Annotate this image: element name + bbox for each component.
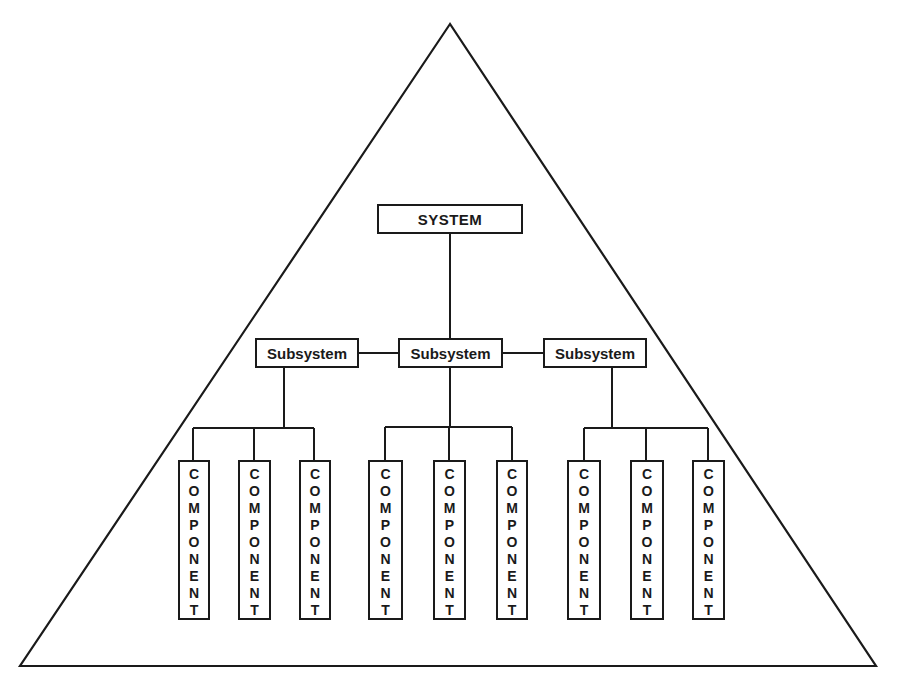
component-label-letter: E [507,568,516,585]
component-label-letter: N [507,585,517,602]
component-label-letter: O [380,483,391,500]
component-label-letter: E [310,568,319,585]
subsystem-node-2: Subsystem [398,338,503,368]
component-label-letter: O [507,483,518,500]
component-label-letter: O [189,483,200,500]
component-label-letter: N [310,585,320,602]
component-label-letter: P [704,517,713,534]
component-label-letter: N [703,585,713,602]
component-label-letter: O [380,534,391,551]
component-label-letter: O [507,534,518,551]
subsystem-label: Subsystem [267,345,347,362]
component-label-letter: C [642,466,652,483]
component-label-letter: N [703,551,713,568]
system-node: SYSTEM [377,204,523,234]
component-label-letter: O [310,483,321,500]
component-label-letter: M [641,500,653,517]
component-label-letter: N [380,551,390,568]
component-label-letter: E [250,568,259,585]
component-label-letter: C [249,466,259,483]
subsystem-label: Subsystem [555,345,635,362]
subsystem-label: Subsystem [410,345,490,362]
component-label-letter: N [444,585,454,602]
component-node: COMPONENT [433,460,466,620]
component-label-letter: P [579,517,588,534]
component-label-letter: T [250,602,259,619]
component-label-letter: M [444,500,456,517]
component-node: COMPONENT [299,460,331,620]
component-label-letter: N [507,551,517,568]
component-label-letter: N [249,585,259,602]
component-label-letter: O [249,534,260,551]
component-label-letter: N [189,551,199,568]
component-label-letter: O [579,483,590,500]
component-label-letter: M [506,500,518,517]
component-label-letter: M [703,500,715,517]
component-label-letter: O [189,534,200,551]
component-label-letter: T [704,602,713,619]
component-label-letter: M [188,500,200,517]
component-label-letter: O [642,534,653,551]
component-label-letter: N [642,585,652,602]
component-label-letter: T [508,602,517,619]
component-label-letter: P [507,517,516,534]
component-label-letter: O [249,483,260,500]
component-label-letter: M [380,500,392,517]
component-label-letter: T [381,602,390,619]
component-node: COMPONENT [630,460,664,620]
component-label-letter: E [445,568,454,585]
subsystem-node-3: Subsystem [543,338,647,368]
component-label-letter: O [642,483,653,500]
component-node: COMPONENT [496,460,528,620]
component-label-letter: E [642,568,651,585]
component-label-letter: O [703,534,714,551]
component-label-letter: M [309,500,321,517]
component-label-letter: C [380,466,390,483]
component-label-letter: T [445,602,454,619]
component-label-letter: M [578,500,590,517]
component-label-letter: P [250,517,259,534]
component-label-letter: O [579,534,590,551]
component-node: COMPONENT [238,460,271,620]
component-label-letter: P [445,517,454,534]
hierarchy-diagram: SYSTEM Subsystem Subsystem Subsystem COM… [0,0,898,686]
component-label-letter: M [249,500,261,517]
component-label-letter: T [643,602,652,619]
component-node: COMPONENT [567,460,601,620]
component-label-letter: N [579,585,589,602]
component-label-letter: E [704,568,713,585]
component-label-letter: N [189,585,199,602]
component-label-letter: C [703,466,713,483]
subsystem-node-1: Subsystem [255,338,359,368]
component-label-letter: O [310,534,321,551]
component-node: COMPONENT [692,460,725,620]
component-label-letter: N [249,551,259,568]
component-label-letter: T [580,602,589,619]
component-label-letter: P [189,517,198,534]
component-label-letter: T [311,602,320,619]
component-label-letter: E [579,568,588,585]
component-label-letter: C [310,466,320,483]
component-label-letter: T [190,602,199,619]
component-label-letter: O [444,534,455,551]
component-label-letter: O [703,483,714,500]
component-label-letter: P [381,517,390,534]
component-label-letter: E [381,568,390,585]
component-label-letter: N [380,585,390,602]
component-label-letter: O [444,483,455,500]
component-label-letter: P [310,517,319,534]
component-label-letter: P [642,517,651,534]
component-label-letter: C [507,466,517,483]
component-label-letter: N [642,551,652,568]
component-node: COMPONENT [368,460,403,620]
component-label-letter: C [189,466,199,483]
component-label-letter: N [310,551,320,568]
component-label-letter: C [444,466,454,483]
component-node: COMPONENT [178,460,210,620]
component-label-letter: N [444,551,454,568]
component-label-letter: C [579,466,589,483]
component-label-letter: N [579,551,589,568]
system-label: SYSTEM [418,211,483,228]
component-label-letter: E [189,568,198,585]
